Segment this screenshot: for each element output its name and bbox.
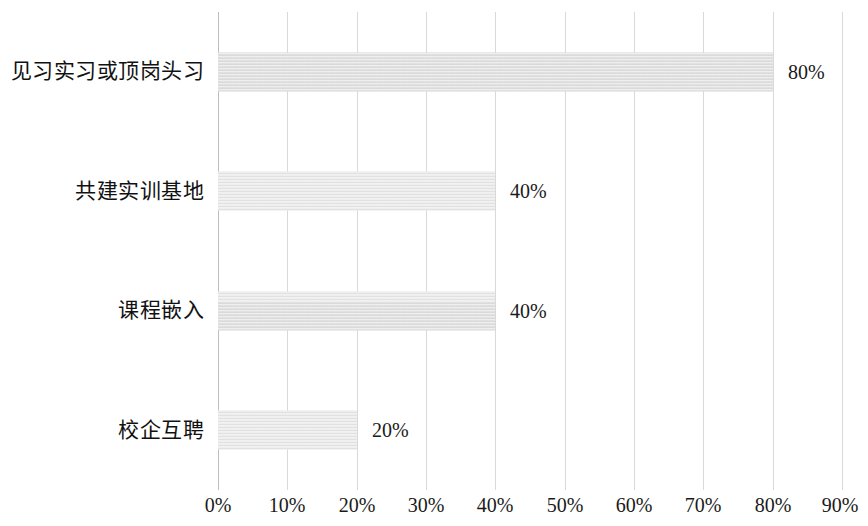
value-axis: 0% 10% 20% 30% 40% 50% 60% 70% 80% 90% [218, 494, 842, 526]
category-row: 校企互聘 [0, 371, 204, 491]
xtick-label-1: 10% [269, 494, 306, 516]
xtick-label-8: 80% [755, 494, 792, 516]
bar-row: 80% [218, 12, 842, 132]
bar-value-label-1: 40% [510, 181, 547, 201]
bar-value-label-2: 40% [510, 301, 547, 321]
xtick-label-3: 30% [408, 494, 445, 516]
bar-row: 40% [218, 251, 842, 371]
category-row: 课程嵌入 [0, 251, 204, 371]
category-row: 见习实习或顶岗头习 [0, 12, 204, 132]
xtick-label-7: 70% [685, 494, 722, 516]
category-row: 共建实训基地 [0, 132, 204, 252]
bar-row: 40% [218, 132, 842, 252]
bar-0 [218, 52, 773, 91]
xtick-label-2: 20% [339, 494, 376, 516]
bar-1 [218, 172, 495, 211]
bars-layer: 80% 40% 40% 20% [218, 12, 842, 490]
bar-row: 20% [218, 371, 842, 491]
xtick-label-4: 40% [477, 494, 514, 516]
category-label-0: 见习实习或顶岗头习 [11, 61, 205, 82]
xtick-label-6: 60% [616, 494, 653, 516]
category-axis: 见习实习或顶岗头习 共建实训基地 课程嵌入 校企互聘 [0, 12, 204, 490]
bar-2 [218, 291, 495, 330]
bar-value-label-3: 20% [372, 420, 409, 440]
bar-3 [218, 411, 357, 450]
bar-value-label-0: 80% [788, 62, 825, 82]
horizontal-bar-chart: 见习实习或顶岗头习 共建实训基地 课程嵌入 校企互聘 80% 40% 40% 2… [0, 0, 868, 526]
category-label-1: 共建实训基地 [75, 181, 204, 202]
category-label-2: 课程嵌入 [118, 300, 204, 321]
xtick-label-0: 0% [205, 494, 232, 516]
gridline-90 [842, 12, 843, 490]
category-label-3: 校企互聘 [118, 420, 204, 441]
xtick-label-9: 90% [822, 494, 859, 516]
xtick-label-5: 50% [547, 494, 584, 516]
